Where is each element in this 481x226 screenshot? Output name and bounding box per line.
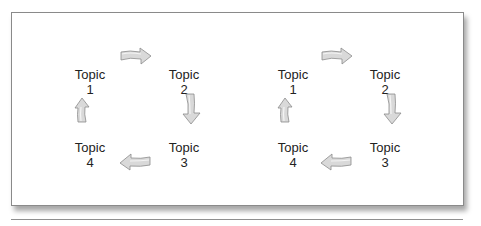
arrow-down-icon <box>182 93 202 125</box>
arrow-down-icon <box>383 93 403 125</box>
topic-number: 3 <box>159 155 209 170</box>
topic-label: Topic <box>159 67 209 82</box>
arrow-right-icon <box>120 47 152 65</box>
topic-1: Topic 1 <box>65 67 115 97</box>
topic-4: Topic 4 <box>65 140 115 170</box>
topic-label: Topic <box>268 140 318 155</box>
topic-label: Topic <box>360 140 410 155</box>
arrow-left-icon <box>119 153 151 171</box>
arrow-up-icon <box>74 97 90 123</box>
arrow-up-icon <box>277 97 293 123</box>
topic-label: Topic <box>268 67 318 82</box>
arrow-left-icon <box>320 153 352 171</box>
cycle-diagram-left: Topic 1 Topic 2 Topic 3 Topic 4 <box>12 13 222 205</box>
separator-line <box>11 219 463 220</box>
topic-label: Topic <box>159 140 209 155</box>
topic-number: 1 <box>268 82 318 97</box>
arrow-right-icon <box>321 47 353 65</box>
figure-frame: Topic 1 Topic 2 Topic 3 Topic 4 <box>11 12 464 206</box>
topic-number: 1 <box>65 82 115 97</box>
topic-label: Topic <box>65 140 115 155</box>
cycle-diagram-right: Topic 1 Topic 2 Topic 3 Topic 4 <box>215 13 425 205</box>
topic-1: Topic 1 <box>268 67 318 97</box>
topic-number: 4 <box>65 155 115 170</box>
topic-number: 4 <box>268 155 318 170</box>
topic-label: Topic <box>360 67 410 82</box>
topic-label: Topic <box>65 67 115 82</box>
topic-4: Topic 4 <box>268 140 318 170</box>
topic-number: 3 <box>360 155 410 170</box>
topic-3: Topic 3 <box>159 140 209 170</box>
topic-3: Topic 3 <box>360 140 410 170</box>
